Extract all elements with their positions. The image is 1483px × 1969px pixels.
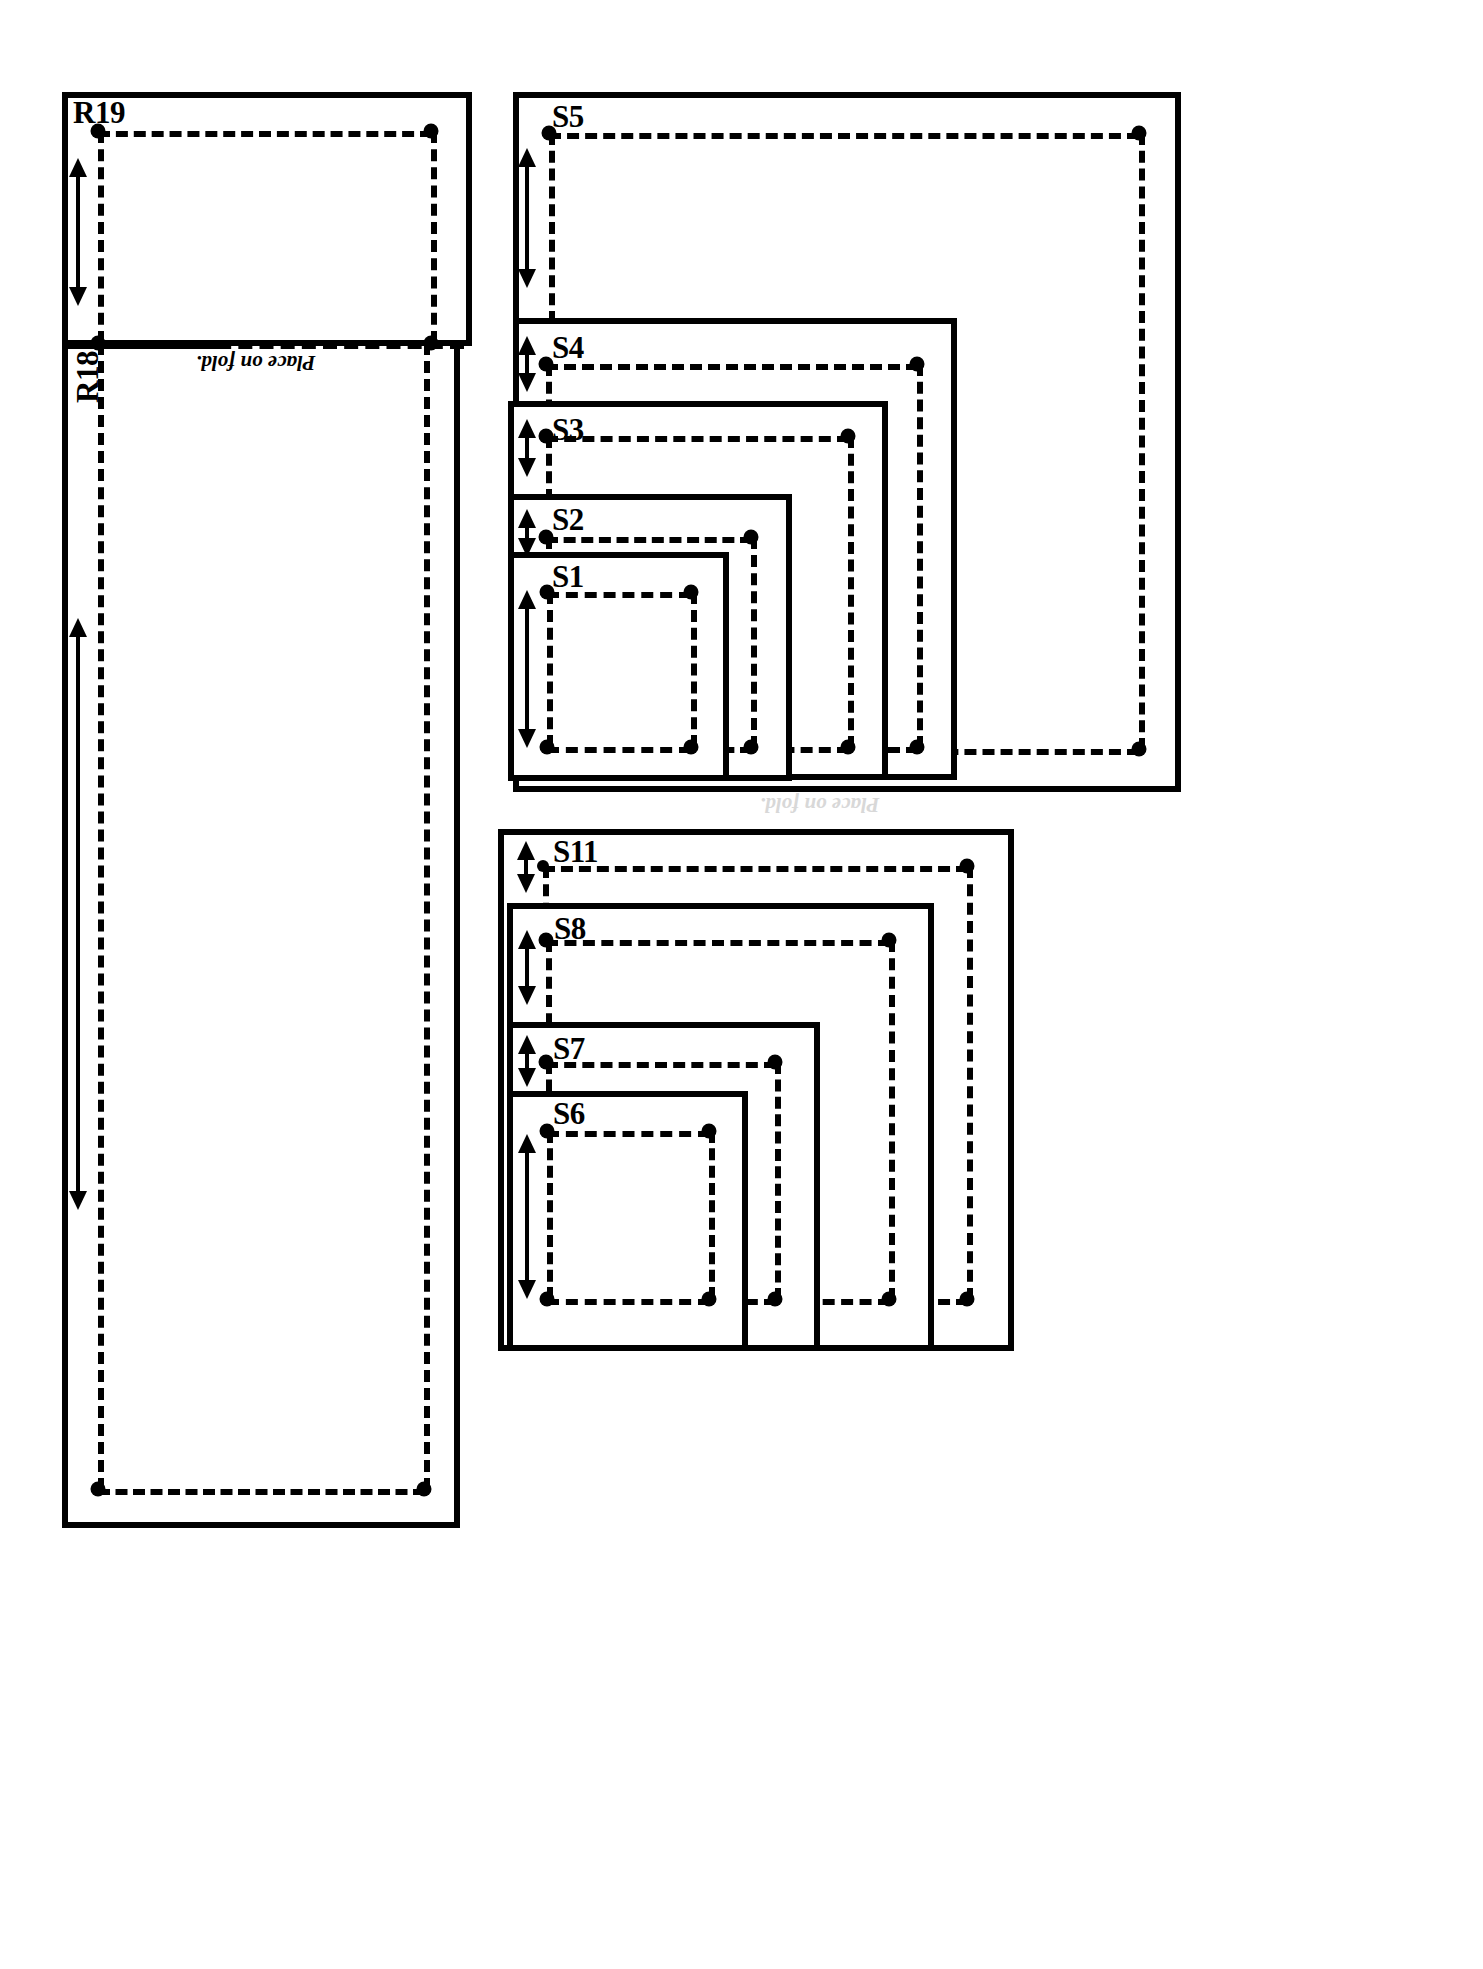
arrowhead-down-icon — [518, 458, 536, 477]
match-dot-s7-top-right — [768, 1055, 783, 1070]
stitch-line-s3-top — [546, 436, 849, 442]
stitch-line-s4-top — [546, 364, 918, 370]
match-dot-s5-bottom-right — [1132, 742, 1147, 757]
fold-caption: Place on fold. — [196, 350, 316, 375]
stitch-line-s8-right — [889, 940, 895, 1300]
arrowhead-down-icon — [518, 1280, 536, 1299]
match-dot-s3-top-left — [539, 429, 554, 444]
match-dot-r19-top-left — [91, 124, 106, 139]
stitch-line-s7-top — [546, 1062, 776, 1068]
stitch-line-s8-top — [546, 940, 890, 946]
arrowhead-down-icon — [69, 287, 87, 306]
stitch-line-s1-right — [691, 592, 697, 747]
stitch-line-r19-left — [98, 131, 104, 343]
match-dot-s5-top-right — [1132, 126, 1147, 141]
match-dot-s1-top-right — [684, 585, 699, 600]
match-dot-s11-bottom-right — [960, 1292, 975, 1307]
stitch-line-s6-right — [709, 1131, 715, 1299]
match-dot-s6-bottom-right — [702, 1292, 717, 1307]
piece-label-s4: S4 — [552, 332, 584, 363]
arrowhead-down-icon — [518, 986, 536, 1005]
match-dot-s2-top-right — [744, 530, 759, 545]
stitch-line-s6-bottom — [547, 1299, 710, 1305]
match-dot-s6-top-right — [702, 1124, 717, 1139]
match-dot-s8-top-left — [539, 933, 554, 948]
match-dot-s1-top-left — [540, 585, 555, 600]
piece-label-s6: S6 — [553, 1098, 585, 1129]
arrow-shaft — [76, 172, 80, 292]
arrow-shaft — [76, 632, 80, 1196]
arrowhead-down-icon — [518, 729, 536, 748]
stitch-line-s1-top — [547, 592, 691, 598]
match-dot-s1-bottom-left — [540, 740, 555, 755]
match-dot-s6-top-left — [540, 1124, 555, 1139]
stitch-line-s6-top — [547, 1131, 710, 1137]
match-dot-s1-bottom-right — [684, 740, 699, 755]
arrowhead-down-icon — [518, 373, 536, 392]
match-dot-s4-top-right — [910, 357, 925, 372]
match-dot-s6-bottom-left — [540, 1292, 555, 1307]
arrowhead-down-icon — [517, 874, 535, 893]
match-dot-s4-bottom-right — [910, 740, 925, 755]
arrowhead-down-icon — [69, 1191, 87, 1210]
match-dot-s5-top-left — [542, 126, 557, 141]
match-dot-r18-bottom-left — [91, 1482, 106, 1497]
match-dot-s7-bottom-right — [768, 1292, 783, 1307]
stitch-line-r19-right — [431, 131, 437, 343]
arrow-shaft — [525, 1148, 529, 1285]
stitch-line-s5-right — [1139, 133, 1145, 750]
match-dot-r19-top-right — [424, 124, 439, 139]
piece-label-s11: S11 — [553, 836, 598, 867]
stitch-line-s1-left — [547, 592, 553, 747]
arrow-shaft — [525, 604, 529, 734]
piece-label-s5: S5 — [552, 101, 584, 132]
piece-outline-r18 — [62, 340, 460, 1528]
arrow-shaft — [525, 944, 529, 991]
stitch-line-r18-bottom — [98, 1489, 425, 1495]
stitch-line-s3-right — [848, 436, 854, 748]
match-dot-s11-top-left — [537, 860, 549, 872]
fold-caption-ghost-upper: Place on fold. — [760, 792, 880, 817]
match-dot-s2-top-left — [539, 530, 554, 545]
stitch-line-s2-right — [751, 537, 757, 748]
stitch-line-r18-left — [98, 343, 104, 1490]
match-dot-s8-bottom-right — [882, 1292, 897, 1307]
piece-label-s2: S2 — [552, 504, 584, 535]
match-dot-s3-bottom-right — [841, 740, 856, 755]
match-dot-s2-bottom-right — [744, 740, 759, 755]
pattern-sheet: Place on fold. R19 R18 S5 — [0, 0, 1483, 1969]
stitch-line-s5-top — [549, 133, 1139, 139]
stitch-line-s6-left — [547, 1131, 553, 1299]
arrow-shaft — [525, 162, 529, 274]
stitch-line-s11-right — [967, 866, 973, 1300]
stitch-line-r18-right — [424, 343, 430, 1490]
match-dot-r18-bottom-right — [417, 1482, 432, 1497]
stitch-line-s1-bottom — [547, 747, 691, 753]
stitch-line-s7-right — [775, 1062, 781, 1300]
stitch-line-s11-top — [543, 866, 968, 872]
piece-label-s7: S7 — [553, 1033, 585, 1064]
arrowhead-down-icon — [518, 269, 536, 288]
match-dot-s11-top-right — [960, 859, 975, 874]
stitch-line-s2-top — [546, 537, 752, 543]
piece-label-s1: S1 — [552, 561, 584, 592]
stitch-line-s4-right — [917, 364, 923, 748]
match-dot-s3-top-right — [841, 429, 856, 444]
match-dot-s7-top-left — [539, 1055, 554, 1070]
arrowhead-down-icon — [518, 1068, 536, 1087]
match-dot-s8-top-right — [882, 933, 897, 948]
match-dot-s4-top-left — [539, 357, 554, 372]
stitch-line-r19-top — [98, 131, 432, 137]
